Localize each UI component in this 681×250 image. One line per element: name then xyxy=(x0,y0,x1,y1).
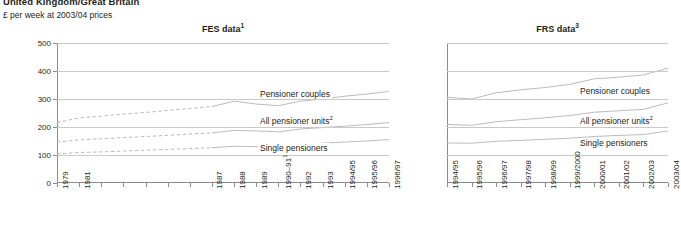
x-axis-tick-fes-4 xyxy=(146,183,147,187)
x-axis-tick-frs-6 xyxy=(594,183,595,187)
x-axis-label-frs-7: 2001/02 xyxy=(622,160,631,189)
x-axis-label-fes-13: 1994/95 xyxy=(348,160,357,189)
gridline-100 xyxy=(57,155,389,156)
y-axis-tick-100 xyxy=(53,155,57,156)
y-axis-tick-300 xyxy=(53,99,57,100)
series-label-frs-pensioner-couples: Pensioner couples xyxy=(578,86,652,96)
gridline-300 xyxy=(447,99,668,100)
gridline-200 xyxy=(447,127,668,128)
x-axis-label-fes-9: 1989 xyxy=(260,171,269,189)
x-axis-tick-fes-9 xyxy=(256,183,257,187)
x-axis-tick-fes-12 xyxy=(323,183,324,187)
x-axis-tick-fes-7 xyxy=(212,183,213,187)
chart-title-frs-footnote: 3 xyxy=(575,22,579,29)
x-axis-tick-fes-3 xyxy=(123,183,124,187)
series-label-fes-all-pensioner-units: All pensioner units2 xyxy=(258,115,335,126)
y-axis-label-300: 300 xyxy=(38,95,51,104)
plot-area-fes xyxy=(57,43,389,183)
gridline-500 xyxy=(57,43,389,44)
gridline-300 xyxy=(57,99,389,100)
units-subtitle: £ per week at 2003/04 prices xyxy=(3,10,112,20)
series-lines-fes xyxy=(57,43,389,183)
x-axis-tick-frs-0 xyxy=(447,183,448,187)
x-axis-label-frs-4: 1998/99 xyxy=(549,160,558,189)
y-axis-label-0: 0 xyxy=(47,179,51,188)
x-axis-tick-fes-10 xyxy=(278,183,279,187)
series-line-single-pensioners-estimated xyxy=(57,148,212,154)
y-axis-label-400: 400 xyxy=(38,67,51,76)
chart-title-fes-footnote: 1 xyxy=(240,22,244,29)
x-axis-tick-fes-5 xyxy=(168,183,169,187)
gridline-400 xyxy=(57,71,389,72)
series-label-frs-all-pensioner-units: All pensioner units2 xyxy=(578,115,655,126)
x-axis-tick-frs-4 xyxy=(545,183,546,187)
series-line-all-pensioner-units-estimated xyxy=(57,133,212,142)
series-label-frs-single-pensioners: Single pensioners xyxy=(578,138,650,148)
x-axis-tick-fes-11 xyxy=(300,183,301,187)
x-axis-label-fes-15: 1996/97 xyxy=(393,160,402,189)
x-axis-label-fes-10: 1990–911 xyxy=(282,155,293,190)
x-axis-tick-frs-3 xyxy=(521,183,522,187)
chart-title-fes-text: FES data xyxy=(202,24,241,34)
y-axis-label-200: 200 xyxy=(38,123,51,132)
x-axis-tick-fes-15 xyxy=(389,183,390,187)
x-axis-tick-frs-2 xyxy=(496,183,497,187)
y-axis-tick-400 xyxy=(53,71,57,72)
x-axis-tick-frs-9 xyxy=(668,183,669,187)
x-axis-label-frs-3: 1997/98 xyxy=(524,160,533,189)
x-axis-tick-fes-2 xyxy=(101,183,102,187)
x-axis-label-fes-14: 1995/96 xyxy=(370,160,379,189)
chart-title-frs: FRS data3 xyxy=(447,22,668,34)
y-axis-label-500: 500 xyxy=(38,39,51,48)
x-axis-label-frs-6: 2000/01 xyxy=(598,160,607,189)
x-axis-tick-frs-8 xyxy=(643,183,644,187)
y-axis-tick-500 xyxy=(53,43,57,44)
gridline-400 xyxy=(447,71,668,72)
x-axis-tick-frs-1 xyxy=(472,183,473,187)
gridline-100 xyxy=(447,155,668,156)
x-axis-label-fes-1: 1981 xyxy=(83,171,92,189)
gridline-500 xyxy=(447,43,668,44)
x-axis-label-frs-2: 1996/97 xyxy=(500,160,509,189)
page-title: United Kingdom/Great Britain xyxy=(3,0,139,7)
x-axis-label-fes-8: 1988 xyxy=(238,171,247,189)
x-axis-label-frs-0: 1994/95 xyxy=(451,160,460,189)
x-axis-tick-fes-13 xyxy=(345,183,346,187)
x-axis-label-fes-7: 1987 xyxy=(215,171,224,189)
x-axis-tick-frs-5 xyxy=(570,183,571,187)
x-axis-tick-fes-8 xyxy=(234,183,235,187)
series-label-fes-pensioner-couples: Pensioner couples xyxy=(258,89,332,99)
x-axis-label-frs-9: 2003/04 xyxy=(672,160,681,189)
x-axis-label-fes-11: 1992 xyxy=(304,171,313,189)
series-line-pensioner-couples-estimated xyxy=(57,107,212,123)
x-axis-label-frs-5: 1999/2000 xyxy=(573,151,582,189)
x-axis-label-frs-1: 1995/96 xyxy=(475,160,484,189)
y-axis-label-100: 100 xyxy=(38,151,51,160)
x-axis-label-frs-8: 2002/03 xyxy=(647,160,656,189)
chart-title-fes: FES data1 xyxy=(57,22,389,34)
x-axis-tick-frs-7 xyxy=(619,183,620,187)
x-axis-tick-fes-0 xyxy=(57,183,58,187)
x-axis-label-fes-12: 1993 xyxy=(326,171,335,189)
gridline-200 xyxy=(57,127,389,128)
series-label-fes-single-pensioners: Single pensioners xyxy=(258,143,330,153)
x-axis-tick-fes-6 xyxy=(190,183,191,187)
y-axis-tick-200 xyxy=(53,127,57,128)
x-axis-label-fes-0: 1979 xyxy=(61,171,70,189)
x-axis-tick-fes-1 xyxy=(79,183,80,187)
chart-title-frs-text: FRS data xyxy=(536,24,575,34)
x-axis-tick-fes-14 xyxy=(367,183,368,187)
